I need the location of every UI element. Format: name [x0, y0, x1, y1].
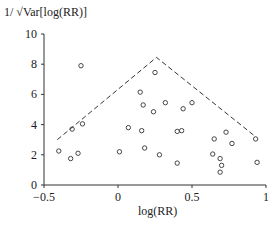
data-point-circle — [163, 101, 167, 105]
x-tick-label: −0.5 — [33, 190, 55, 204]
data-point-circle — [218, 170, 222, 174]
y-tick-label: 4 — [31, 118, 37, 132]
x-axis-label: log(RR) — [138, 204, 177, 219]
data-point-circle — [139, 128, 143, 132]
data-point-circle — [212, 137, 216, 141]
data-point-circle — [138, 90, 142, 94]
data-point-circle — [126, 125, 130, 129]
data-point-circle — [230, 141, 234, 145]
data-point-circle — [224, 130, 228, 134]
funnel-dashed-line — [57, 57, 255, 139]
y-tick-label: 10 — [25, 27, 37, 41]
data-point-circle — [57, 149, 61, 153]
funnel-plot: 0246810−0.500.51 — [0, 0, 278, 230]
data-point-circle — [80, 122, 84, 126]
data-point-circle — [253, 137, 257, 141]
x-tick-label: 0 — [115, 190, 121, 204]
data-point-circle — [79, 64, 83, 68]
data-point-circle — [179, 128, 183, 132]
data-point-circle — [76, 151, 80, 155]
data-point-circle — [175, 129, 179, 133]
y-tick-label: 2 — [31, 148, 37, 162]
data-point-circle — [68, 156, 72, 160]
data-point-circle — [175, 161, 179, 165]
data-point-circle — [190, 101, 194, 105]
x-tick-label: 1 — [263, 190, 269, 204]
data-point-circle — [218, 156, 222, 160]
data-point-circle — [255, 160, 259, 164]
y-tick-label: 6 — [31, 87, 37, 101]
data-point-circle — [151, 110, 155, 114]
data-point-circle — [219, 163, 223, 167]
data-point-circle — [142, 146, 146, 150]
x-tick-label: 0.5 — [185, 190, 200, 204]
data-point-circle — [141, 103, 145, 107]
y-tick-label: 8 — [31, 57, 37, 71]
data-point-circle — [211, 152, 215, 156]
data-point-circle — [157, 153, 161, 157]
data-point-circle — [117, 150, 121, 154]
data-point-circle — [153, 70, 157, 74]
data-point-circle — [181, 107, 185, 111]
